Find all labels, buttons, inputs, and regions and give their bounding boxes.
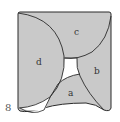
label-a: a [68,88,74,98]
label-d: d [36,57,42,67]
label-b: b [94,66,100,76]
label-c: c [74,27,79,37]
figure-number: 8 [5,102,11,113]
geometry-diagram: c d b a 8 [0,0,120,122]
